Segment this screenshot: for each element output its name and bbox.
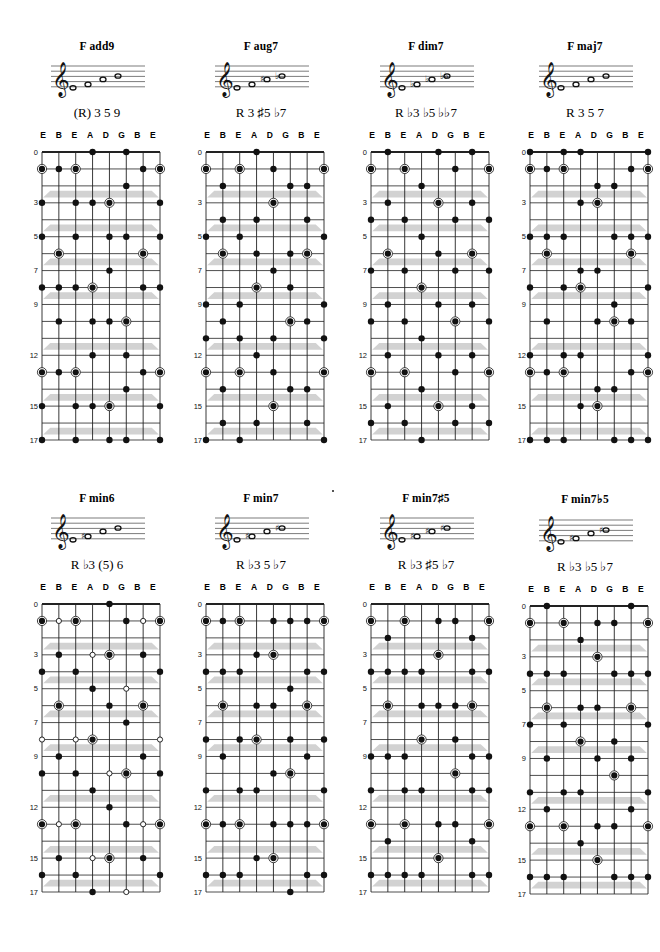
- fret-marker: [402, 420, 408, 426]
- fretboard-wrapper[interactable]: 03579121517: [351, 144, 501, 452]
- string-label: E: [398, 582, 408, 592]
- fretboard-wrapper[interactable]: 03579121517: [22, 596, 172, 904]
- fret-marker: [561, 671, 567, 677]
- svg-text:15: 15: [194, 854, 202, 863]
- fretboard-wrapper[interactable]: 03579121517: [351, 596, 501, 904]
- fret-marker: [106, 702, 112, 708]
- fret-marker: [527, 352, 533, 358]
- fret-marker: [157, 770, 163, 776]
- fret-marker: [319, 820, 328, 829]
- fret-marker: [594, 755, 600, 761]
- fret-marker: [155, 616, 164, 625]
- fret-marker: [385, 872, 391, 878]
- fretboard-diagram[interactable]: 03579121517: [351, 596, 495, 900]
- fretboard-diagram[interactable]: 03579121517: [186, 596, 330, 900]
- fret-marker: [561, 149, 567, 155]
- fret-marker: [418, 335, 424, 341]
- svg-text:9: 9: [363, 300, 367, 309]
- fret-marker: [88, 283, 97, 292]
- chord-card: F dim7𝄞♭♭♭♭R ♭3 ♭5 ♭♭7EBEADGBE0357912151…: [351, 40, 501, 452]
- fret-marker: [218, 249, 227, 258]
- fret-marker: [385, 352, 391, 358]
- fret-marker: [270, 821, 276, 827]
- chord-formula: R 3 ♯5 ♭7: [186, 105, 336, 121]
- fret-marker: [252, 735, 261, 744]
- fret-marker: [237, 872, 243, 878]
- fret-marker: [237, 335, 243, 341]
- fret-marker: [544, 671, 550, 677]
- svg-text:0: 0: [522, 602, 526, 611]
- fret-marker: [89, 403, 95, 409]
- fret-marker: [220, 183, 226, 189]
- fretboard-wrapper[interactable]: 03579121517: [22, 144, 172, 452]
- fret-marker: [140, 166, 146, 172]
- string-label: B: [620, 130, 630, 140]
- fret-marker: [544, 874, 550, 880]
- fret-marker: [140, 753, 146, 759]
- fret-marker: [157, 669, 163, 675]
- fret-marker: [220, 821, 226, 827]
- fret-marker: [123, 719, 129, 725]
- fret-marker: [452, 420, 458, 426]
- fret-marker: [400, 616, 409, 625]
- svg-text:7: 7: [198, 266, 202, 275]
- fret-marker: [368, 872, 374, 878]
- fretboard-diagram[interactable]: 03579121517: [510, 598, 654, 902]
- fret-marker: [418, 872, 424, 878]
- staff-notation: 𝄞♯♭: [209, 59, 313, 99]
- fret-marker: [253, 787, 259, 793]
- fret-marker: [544, 166, 550, 172]
- fret-marker: [56, 318, 62, 324]
- string-label: G: [605, 130, 615, 140]
- fretboard-diagram[interactable]: 03579121517: [510, 144, 654, 448]
- string-label: E: [557, 584, 567, 594]
- string-label: A: [249, 582, 259, 592]
- svg-text:17: 17: [194, 436, 202, 445]
- fret-marker: [434, 854, 443, 863]
- fret-marker: [418, 234, 424, 240]
- fret-marker: [435, 821, 441, 827]
- fretboard-wrapper[interactable]: 03579121517: [186, 596, 336, 904]
- fretboard-diagram[interactable]: 03579121517: [22, 596, 166, 900]
- svg-text:3: 3: [198, 650, 202, 659]
- string-label: B: [296, 130, 306, 140]
- svg-text:0: 0: [198, 148, 202, 157]
- string-label: B: [218, 582, 228, 592]
- string-labels: EBEADGBE: [351, 582, 501, 592]
- string-label: B: [383, 582, 393, 592]
- fret-marker: [593, 652, 602, 661]
- svg-text:12: 12: [194, 803, 202, 812]
- fret-marker: [203, 301, 209, 307]
- fret-marker: [73, 200, 79, 206]
- string-label: G: [281, 582, 291, 592]
- fretboard-wrapper[interactable]: 03579121517: [510, 144, 660, 452]
- string-labels: EBEADGBE: [186, 130, 336, 140]
- chord-sheet: F add9𝄞(R) 3 5 9EBEADGBE03579121517F aug…: [0, 0, 660, 952]
- fret-marker: [73, 403, 79, 409]
- chord-card: F min7♭5𝄞♯♯R ♭3 ♭5 ♭7EBEADGBE03579121517: [510, 492, 660, 906]
- chord-formula: R ♭3 (5) 6: [22, 557, 172, 573]
- fret-marker: [89, 352, 95, 358]
- fret-marker: [576, 737, 585, 746]
- scan-artifact-dot: [332, 490, 334, 492]
- fret-marker: [140, 855, 146, 861]
- fretboard-wrapper[interactable]: 03579121517: [510, 598, 660, 906]
- fretboard-diagram[interactable]: 03579121517: [351, 144, 495, 448]
- fret-marker: [611, 874, 617, 880]
- fret-marker: [527, 284, 533, 290]
- fret-marker: [593, 402, 602, 411]
- fretboard-diagram[interactable]: 03579121517: [186, 144, 330, 448]
- fret-marker: [561, 721, 567, 727]
- fret-marker: [559, 822, 568, 831]
- fretboard-diagram[interactable]: 03579121517: [22, 144, 166, 448]
- fret-marker: [105, 854, 114, 863]
- fret-marker: [304, 872, 310, 878]
- fret-marker: [561, 874, 567, 880]
- chord-title: F dim7: [351, 40, 501, 52]
- fret-marker: [139, 249, 148, 258]
- fret-marker: [56, 284, 62, 290]
- fret-marker: [123, 437, 129, 443]
- fretboard-wrapper[interactable]: 03579121517: [186, 144, 336, 452]
- staff-notation: 𝄞♯: [45, 511, 149, 551]
- fret-marker: [643, 368, 652, 377]
